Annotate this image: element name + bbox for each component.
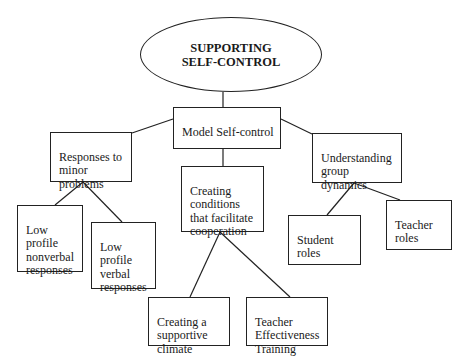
node-label: Model Self-control: [182, 125, 274, 139]
node-label: Creating conditions that facilitate coop…: [190, 184, 253, 239]
node-teacher-roles: Teacher roles: [386, 200, 452, 250]
edge-conditions-climate: [190, 232, 220, 297]
node-understanding-group-dynamics: Understanding group dynamics: [312, 133, 402, 183]
edge-model-responses: [132, 119, 173, 133]
node-model-self-control: Model Self-control: [173, 107, 281, 149]
node-teacher-effectiveness-training: Teacher Effectiveness Training: [246, 297, 328, 346]
node-responses-to-minor-problems: Responses to minor problems: [50, 132, 132, 182]
node-label: Student roles: [297, 233, 334, 261]
node-label: Teacher roles: [395, 218, 433, 246]
node-student-roles: Student roles: [288, 215, 361, 265]
edge-conditions-tet: [220, 232, 290, 297]
edge-model-group: [281, 119, 312, 134]
node-low-profile-verbal: Low profile verbal responses: [91, 222, 156, 289]
node-low-profile-nonverbal: Low profile nonverbal responses: [17, 205, 83, 272]
node-creating-conditions: Creating conditions that facilitate coop…: [181, 166, 264, 232]
node-label: Low profile nonverbal responses: [26, 223, 74, 278]
node-label: Low profile verbal responses: [100, 240, 147, 295]
root-node-supporting-self-control: SUPPORTING SELF-CONTROL: [140, 17, 322, 92]
node-creating-supportive-climate: Creating a supportive climate: [148, 297, 230, 346]
root-node-label: SUPPORTING SELF-CONTROL: [182, 41, 281, 69]
